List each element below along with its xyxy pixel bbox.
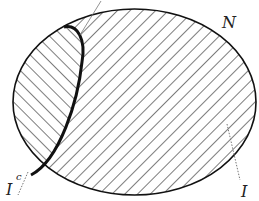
label-i-complement: I [5, 180, 13, 199]
label-i-complement-superscript: c [16, 171, 22, 182]
label-n: N [221, 13, 237, 32]
label-i: I [240, 182, 248, 201]
set-diagram: N I c I [0, 0, 259, 201]
